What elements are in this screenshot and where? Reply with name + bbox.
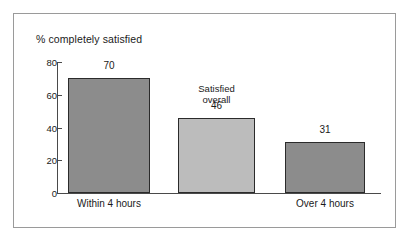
bar-value-label-1: 70 — [68, 60, 150, 71]
y-tick-label-40: 40 — [3, 122, 57, 133]
category-label-within-4-hours: Within 4 hours — [48, 198, 170, 209]
bar-satisfied-overall — [178, 118, 255, 193]
bar-within-4-hours — [68, 78, 150, 193]
bar-value-label-2: 46 — [178, 100, 255, 111]
bar-value-label-3: 31 — [285, 124, 365, 135]
bar-over-4-hours — [285, 142, 365, 193]
x-axis-line — [57, 193, 381, 194]
chart-title: % completely satisfied — [36, 33, 142, 45]
category-label-over-4-hours: Over 4 hours — [265, 198, 385, 209]
y-tick-label-0: 0 — [3, 188, 57, 199]
y-tick-label-20: 20 — [3, 155, 57, 166]
y-tick-mark-60 — [57, 95, 62, 96]
y-tick-mark-80 — [57, 62, 62, 63]
y-tick-label-60: 60 — [3, 89, 57, 100]
bar-chart-figure: % completely satisfied 80 60 40 20 0 70 … — [0, 0, 415, 241]
y-tick-mark-20 — [57, 160, 62, 161]
annotation-line-1: Satisfied — [198, 83, 234, 94]
y-tick-label-80: 80 — [3, 57, 57, 68]
y-tick-mark-40 — [57, 128, 62, 129]
